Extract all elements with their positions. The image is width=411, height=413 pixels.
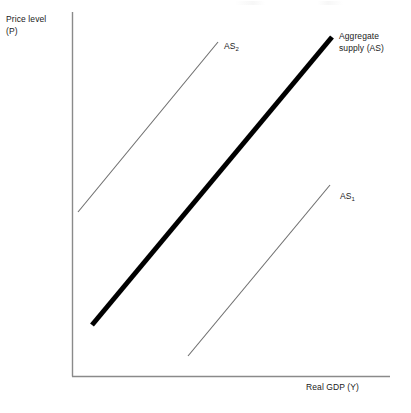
curve-as1-line (188, 185, 330, 356)
curve-label-aggregate-supply: Aggregate supply (AS) (339, 31, 384, 54)
curve-label-as2: AS2 (224, 41, 239, 54)
x-axis-label: Real GDP (Y) (306, 382, 359, 394)
curve-as-main-line (92, 37, 332, 325)
curve-as2-line (78, 42, 218, 212)
curve-label-as1-subscript: 1 (352, 196, 355, 202)
curve-label-as1-text: AS (340, 191, 352, 201)
aggregate-supply-diagram: Price level (P) Real GDP (Y) Aggregate s… (0, 0, 411, 413)
curve-label-as2-subscript: 2 (236, 46, 239, 52)
plot-area (0, 0, 411, 413)
curve-label-as1: AS1 (340, 191, 355, 204)
y-axis-label: Price level (P) (6, 14, 46, 37)
curve-label-as2-text: AS (224, 41, 236, 51)
